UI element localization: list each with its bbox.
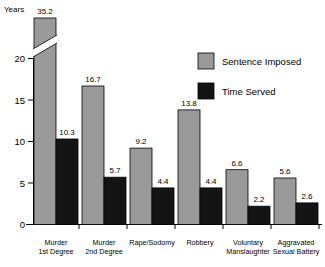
y-tick-label: 20 <box>14 53 25 64</box>
category-label-line1: Voluntary <box>233 238 263 247</box>
bar-time-served[interactable] <box>104 177 126 224</box>
bar-time-served[interactable] <box>200 188 222 225</box>
value-label-time-served: 2.2 <box>253 195 265 204</box>
bar-sentence-imposed[interactable] <box>274 178 296 225</box>
y-tick-label: 5 <box>20 178 25 189</box>
category-label-line1: Aggravated <box>278 238 315 247</box>
category-label-line1: Rape/Sodomy <box>129 238 175 247</box>
y-tick-label: 0 <box>20 219 25 230</box>
value-label-sentence-imposed: 9.2 <box>135 137 147 146</box>
y-tick-label: 10 <box>14 136 25 147</box>
value-label-sentence-imposed: 5.6 <box>279 167 291 176</box>
bar-sentence-imposed[interactable] <box>130 148 152 224</box>
bar-time-served[interactable] <box>248 206 270 224</box>
value-label-time-served: 4.4 <box>205 177 217 186</box>
bar-chart: Years 20 15 10 5 0 <box>0 0 325 267</box>
value-label-sentence-imposed: 16.7 <box>85 75 101 84</box>
legend-item-sentence-imposed[interactable]: Sentence Imposed <box>198 53 301 69</box>
value-label-sentence-imposed: 35.2 <box>37 7 53 16</box>
category-label-line1: Murder <box>45 238 68 247</box>
bar-sentence-imposed[interactable] <box>178 110 200 225</box>
legend-swatch-time-served <box>198 83 214 99</box>
category-label-line1: Robbery <box>186 238 214 247</box>
bar-time-served[interactable] <box>56 139 78 225</box>
value-label-sentence-imposed: 13.8 <box>181 99 197 108</box>
legend-label-sentence-imposed: Sentence Imposed <box>222 56 301 67</box>
category-label-line1: Murder <box>93 238 116 247</box>
category-label-line2: 1st Degree <box>38 247 73 256</box>
legend-label-time-served: Time Served <box>222 86 276 97</box>
bar-time-served[interactable] <box>152 188 174 225</box>
legend-swatch-sentence-imposed <box>198 53 214 69</box>
value-label-time-served: 4.4 <box>157 177 169 186</box>
bar-time-served[interactable] <box>296 203 318 225</box>
bar-sentence-imposed[interactable] <box>226 170 248 225</box>
legend-item-time-served[interactable]: Time Served <box>198 83 276 99</box>
bar-sentence-imposed[interactable] <box>82 86 104 225</box>
value-label-time-served: 5.7 <box>109 166 121 175</box>
value-label-time-served: 2.6 <box>301 192 313 201</box>
category-label-line2: 2nd Degree <box>85 247 123 256</box>
value-label-sentence-imposed: 6.6 <box>231 159 243 168</box>
category-label-line2: Manslaughter <box>226 247 270 256</box>
category-label-line2: Sexual Battery <box>273 247 320 256</box>
y-axis-title: Years <box>4 5 24 14</box>
y-tick-label: 15 <box>14 95 25 106</box>
value-label-time-served: 10.3 <box>59 128 75 137</box>
